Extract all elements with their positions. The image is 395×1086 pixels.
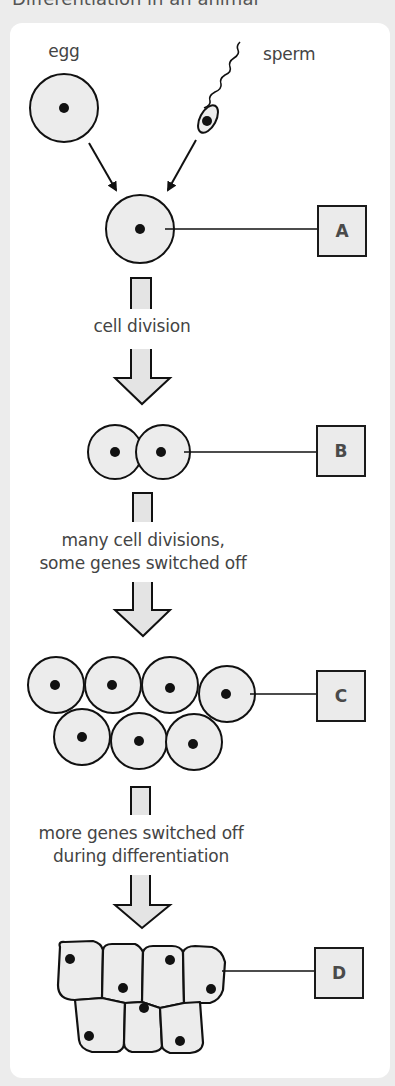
step-3-label-line-2: during differentiation [53,846,229,867]
stage-b-cells [88,425,190,479]
stage-c-box: C [316,670,366,722]
egg-cell [30,74,98,142]
step-2-label-line-2: some genes switched off [39,553,246,574]
sperm-label: sperm [263,44,315,65]
sperm-arrow [168,140,196,190]
egg-arrow [89,143,116,190]
arrow-step-1 [115,278,170,404]
stage-b-box: B [316,425,366,477]
step-2-label-line-1: many cell divisions, [61,530,224,551]
stage-d-box: D [314,947,364,999]
sperm-cell [194,42,240,136]
stage-c-cells [28,657,255,770]
stage-a-cell [106,195,174,263]
egg-label: egg [48,41,79,62]
step-1-label: cell division [93,316,190,337]
step-3-label-line-1: more genes switched off [39,823,244,844]
stage-d-cells [58,941,225,1053]
stage-a-box: A [317,205,367,257]
